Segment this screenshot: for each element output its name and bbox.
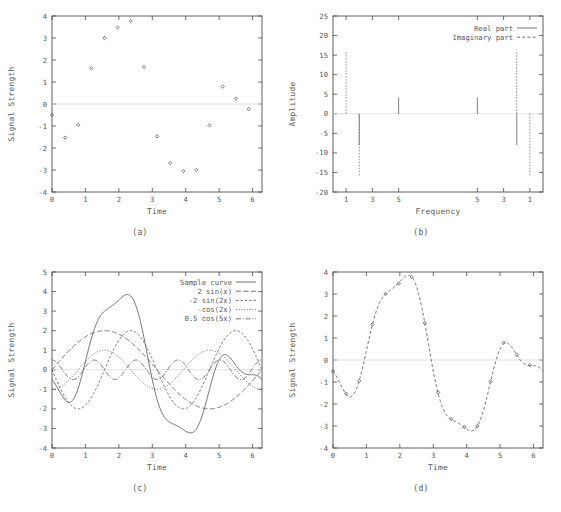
svg-text:1: 1 (528, 195, 532, 204)
svg-text:15: 15 (319, 51, 328, 60)
svg-text:3: 3 (370, 195, 374, 204)
svg-text:20: 20 (319, 31, 328, 40)
data-point (103, 36, 106, 39)
svg-text:Signal Strength: Signal Strength (288, 323, 297, 398)
data-point (528, 363, 531, 366)
panel-a-caption: (a) (0, 228, 280, 237)
svg-text:1: 1 (344, 195, 348, 204)
data-point (168, 161, 171, 164)
svg-text:4: 4 (43, 12, 47, 21)
panel-b-frame (333, 16, 543, 192)
panel-a: 0123456-4-3-2-101234TimeSignal Strength … (0, 0, 280, 256)
data-point (234, 97, 237, 100)
svg-text:-1: -1 (38, 385, 47, 394)
svg-text:-3: -3 (38, 166, 47, 175)
svg-text:-1: -1 (38, 122, 47, 131)
svg-text:0: 0 (43, 365, 47, 374)
svg-text:4: 4 (184, 451, 188, 460)
panel-d-plot[interactable]: 0123456-4-3-2-101234TimeSignal Strength (281, 256, 561, 486)
data-point (489, 380, 492, 383)
svg-text:3: 3 (324, 290, 328, 299)
svg-text:Amplitude: Amplitude (288, 82, 297, 127)
svg-text:0: 0 (331, 451, 335, 460)
svg-text:-4: -4 (38, 444, 47, 453)
svg-text:5: 5 (324, 90, 328, 99)
panel-b: 135531-20-15-10-50510152025FrequencyAmpl… (281, 0, 561, 256)
impulse-series (359, 97, 517, 145)
svg-text:0: 0 (43, 100, 47, 109)
scatter-series (331, 275, 531, 428)
svg-text:5: 5 (217, 195, 221, 204)
svg-text:2: 2 (117, 451, 121, 460)
svg-text:3: 3 (43, 34, 47, 43)
svg-text:5: 5 (217, 451, 221, 460)
svg-text:-2: -2 (319, 400, 328, 409)
svg-text:2: 2 (43, 326, 47, 335)
data-point (63, 136, 66, 139)
fit-curve (333, 275, 543, 431)
svg-text:5: 5 (475, 195, 479, 204)
svg-text:-4: -4 (38, 188, 47, 197)
data-point (502, 341, 505, 344)
svg-text:5: 5 (396, 195, 400, 204)
data-point (182, 169, 185, 172)
svg-text:-cos(2x): -cos(2x) (197, 305, 232, 314)
data-point (129, 19, 132, 22)
svg-text:0: 0 (50, 195, 54, 204)
svg-text:Signal Strength: Signal Strength (7, 323, 16, 398)
svg-text:0.5 cos(5x): 0.5 cos(5x) (184, 314, 232, 323)
svg-text:2: 2 (117, 195, 121, 204)
svg-text:2 sin(x): 2 sin(x) (197, 287, 232, 296)
svg-text:Sample curve: Sample curve (180, 278, 232, 287)
svg-text:25: 25 (319, 12, 328, 21)
svg-text:4: 4 (465, 451, 469, 460)
svg-text:3: 3 (431, 451, 435, 460)
svg-text:1: 1 (364, 451, 368, 460)
svg-text:-2: -2 (38, 404, 47, 413)
svg-text:6: 6 (250, 451, 254, 460)
data-point (515, 353, 518, 356)
data-point (90, 67, 93, 70)
svg-text:-10: -10 (315, 148, 328, 157)
panel-d-caption: (d) (281, 484, 561, 493)
svg-text:2: 2 (43, 56, 47, 65)
svg-text:1: 1 (324, 334, 328, 343)
panel-c-plot[interactable]: 0123456-4-3-2-1012345TimeSignal Strength… (0, 256, 280, 486)
panel-d: 0123456-4-3-2-101234TimeSignal Strength … (281, 256, 561, 512)
panel-b-plot[interactable]: 135531-20-15-10-50510152025FrequencyAmpl… (281, 0, 561, 230)
data-point (247, 107, 250, 110)
svg-text:Time: Time (428, 463, 448, 472)
svg-text:10: 10 (319, 70, 328, 79)
svg-text:4: 4 (184, 195, 188, 204)
svg-text:Time: Time (147, 463, 167, 472)
data-point (221, 85, 224, 88)
svg-text:Frequency: Frequency (416, 207, 461, 216)
panel-c-caption: (c) (0, 484, 280, 493)
data-point (155, 135, 158, 138)
svg-text:5: 5 (498, 451, 502, 460)
data-point (476, 424, 479, 427)
svg-text:0: 0 (50, 451, 54, 460)
svg-text:2: 2 (324, 312, 328, 321)
data-point (77, 123, 80, 126)
data-point (371, 323, 374, 326)
panel-b-caption: (b) (281, 228, 561, 237)
svg-text:1: 1 (43, 78, 47, 87)
svg-text:Real part: Real part (474, 24, 513, 33)
svg-text:4: 4 (324, 268, 328, 277)
svg-text:-2 sin(2x): -2 sin(2x) (189, 296, 232, 305)
svg-text:3: 3 (501, 195, 505, 204)
svg-text:3: 3 (43, 307, 47, 316)
svg-text:1: 1 (83, 451, 87, 460)
svg-text:1: 1 (43, 346, 47, 355)
panel-a-plot[interactable]: 0123456-4-3-2-101234TimeSignal Strength (0, 0, 280, 230)
svg-text:4: 4 (43, 287, 47, 296)
svg-text:Signal Strength: Signal Strength (7, 67, 16, 142)
data-point (142, 65, 145, 68)
svg-text:5: 5 (43, 268, 47, 277)
svg-text:Time: Time (147, 207, 167, 216)
data-point (116, 26, 119, 29)
svg-text:-1: -1 (319, 378, 328, 387)
data-point (195, 168, 198, 171)
svg-text:-2: -2 (38, 144, 47, 153)
